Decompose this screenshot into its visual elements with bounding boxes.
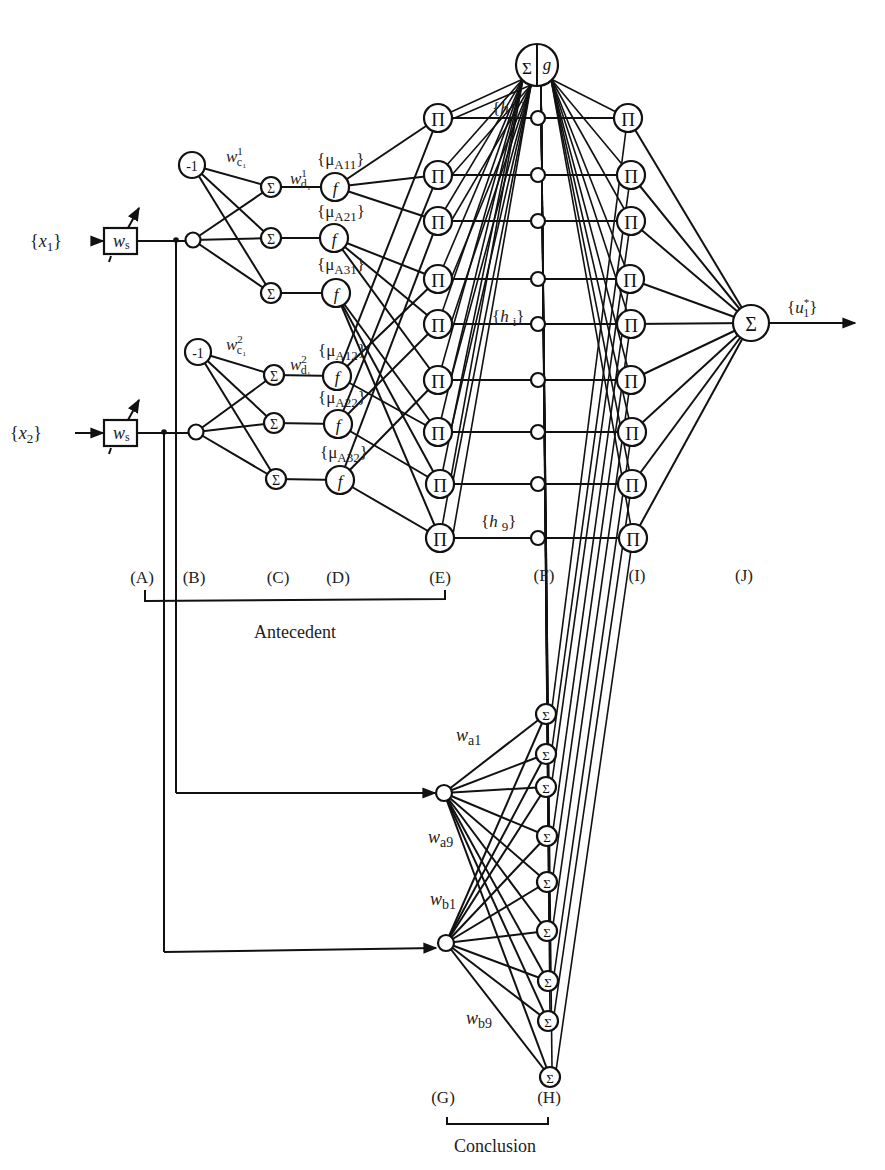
svg-text:Σ: Σ	[544, 975, 552, 990]
svg-text:Σ: Σ	[270, 417, 278, 432]
antecedent-bracket	[145, 590, 445, 601]
diagram-labels: ws{x1}ws{x2}w1c₁w1d₁w2c₁w2d₁{μA11}{μA21}…	[10, 99, 817, 1156]
normalized-node-f5	[531, 317, 545, 331]
layer-label-D: (D)	[326, 568, 350, 587]
conclusion-label: Conclusion	[454, 1136, 536, 1156]
sum-g-normalizer-node: Σg	[516, 44, 558, 86]
sum-node-c22: Σ	[264, 413, 284, 433]
consequent-product-node-i2: Π	[617, 161, 645, 189]
normalized-node-f6	[531, 373, 545, 387]
hidden-label-hi: {hi}	[492, 307, 524, 329]
normalized-node-f4	[531, 272, 545, 286]
normalized-node-f2	[531, 168, 545, 182]
consequent-product-node-i3: Π	[617, 207, 645, 235]
layer-label-B: (B)	[183, 568, 206, 587]
svg-text:Σ: Σ	[542, 708, 550, 723]
svg-text:-1: -1	[192, 346, 204, 361]
consequent-product-node-i1: Π	[614, 104, 642, 132]
membership-function-node-12: f	[323, 362, 351, 390]
rule-product-node-e5: Π	[424, 310, 452, 338]
conclusion-sum-node-h5: Σ	[537, 872, 557, 892]
layer-label-C: (C)	[267, 568, 290, 587]
weight-label-wc2: w2c₁	[226, 333, 246, 357]
weight-label-wb1: wb1	[430, 889, 456, 912]
conclusion-sum-node-h2: Σ	[536, 744, 556, 764]
layer-label-G: (G)	[431, 1088, 455, 1107]
svg-text:Π: Π	[431, 212, 445, 233]
bias-node-2: -1	[185, 339, 211, 365]
membership-function-node-22: f	[324, 410, 352, 438]
conclusion-sum-node-h4: Σ	[537, 826, 557, 846]
conclusion-sum-node-h6: Σ	[537, 921, 557, 941]
rule-product-node-e6: Π	[424, 366, 452, 394]
svg-text:Σ: Σ	[543, 876, 551, 891]
membership-label-A12: {μA12}	[318, 341, 366, 363]
neuro-fuzzy-network-diagram: -1ΣΣΣfff-1ΣΣΣfffΠΠΠΠΠΠΠΠΠΠΠΠΠΠΠΠΠΠΣgΣΣΣΣ…	[0, 0, 885, 1170]
rule-product-node-e7: Π	[424, 418, 452, 446]
conclusion-sum-node-h8: Σ	[538, 1011, 558, 1031]
consequent-product-node-i5: Π	[617, 310, 645, 338]
svg-text:Σ: Σ	[542, 748, 550, 763]
sum-node-c11: Σ	[261, 177, 281, 197]
output-label-u1: {u*1}	[787, 296, 817, 320]
layer-label-H: (H)	[537, 1088, 561, 1107]
svg-text:Π: Π	[433, 529, 447, 550]
sum-node-c23: Σ	[266, 469, 286, 489]
conclusion-input-node-2	[438, 935, 454, 951]
svg-text:Σ: Σ	[544, 1015, 552, 1030]
membership-label-A22: {μA22}	[318, 388, 366, 410]
sum-node-c21: Σ	[264, 365, 284, 385]
svg-text:-1: -1	[186, 159, 198, 174]
rule-product-node-e2: Π	[424, 161, 452, 189]
normalized-node-f8	[531, 477, 545, 491]
svg-text:Σ: Σ	[546, 1071, 554, 1086]
svg-text:Π: Π	[431, 371, 445, 392]
svg-text:g: g	[543, 55, 552, 74]
membership-function-node-21: f	[320, 224, 348, 252]
layer-label-A: (A)	[130, 568, 154, 587]
svg-text:Π: Π	[626, 529, 640, 550]
rule-product-node-e3: Π	[424, 207, 452, 235]
weight-label-wa9: wa9	[428, 827, 453, 850]
membership-label-A31: {μA31}	[317, 255, 365, 277]
input-node-2	[189, 425, 204, 440]
conclusion-sum-node-h3: Σ	[536, 777, 556, 797]
svg-text:Π: Π	[431, 109, 445, 130]
membership-function-node-32: f	[326, 466, 354, 494]
sum-node-c13: Σ	[261, 283, 281, 303]
membership-function-node-11: f	[321, 173, 349, 201]
bias-node-1: -1	[179, 152, 205, 178]
membership-label-A32: {μA32}	[320, 443, 368, 465]
normalized-node-f1	[531, 111, 545, 125]
layer-label-F: (F)	[534, 566, 555, 585]
svg-text:Π: Π	[624, 315, 638, 336]
weight-label-wb9: wb9	[466, 1008, 492, 1031]
rule-product-node-e9: Π	[426, 524, 454, 552]
sum-node-c12: Σ	[261, 228, 281, 248]
normalized-node-f7	[531, 425, 545, 439]
consequent-product-node-i7: Π	[618, 418, 646, 446]
membership-label-A21: {μA21}	[317, 202, 365, 224]
normalized-node-f3	[531, 214, 545, 228]
svg-text:Π: Π	[621, 109, 635, 130]
svg-text:Σ: Σ	[267, 232, 275, 247]
conclusion-sum-node-h1: Σ	[536, 704, 556, 724]
svg-text:Π: Π	[431, 270, 445, 291]
svg-text:Σ: Σ	[270, 369, 278, 384]
svg-text:Π: Π	[625, 423, 639, 444]
weight-label-wd1: w1d₁	[290, 167, 311, 191]
consequent-product-node-i9: Π	[619, 524, 647, 552]
input-node-1	[186, 233, 201, 248]
svg-text:Π: Π	[624, 166, 638, 187]
conclusion-sum-node-h9: Σ	[540, 1067, 560, 1087]
antecedent-label: Antecedent	[254, 622, 336, 642]
svg-text:Σ: Σ	[272, 473, 280, 488]
hidden-label-h9: {h9}	[481, 512, 516, 534]
consequent-product-node-i8: Π	[618, 470, 646, 498]
input-label-x1: {x1}	[30, 231, 62, 254]
svg-text:Π: Π	[431, 423, 445, 444]
svg-text:Π: Π	[431, 315, 445, 336]
conclusion-bracket	[447, 1117, 548, 1124]
layer-label-I: (I)	[629, 566, 646, 585]
rule-product-node-e4: Π	[424, 265, 452, 293]
